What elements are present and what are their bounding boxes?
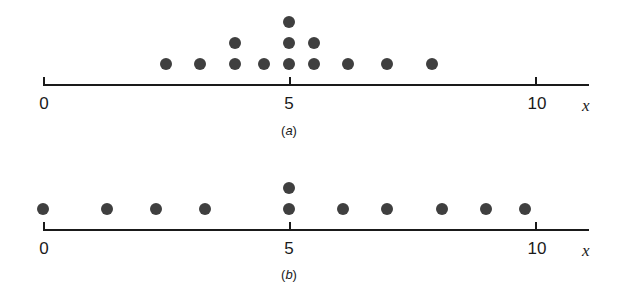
- data-point: [436, 203, 448, 215]
- tick-label-5-b: 5: [284, 240, 293, 257]
- tick-label-0-b: 0: [39, 240, 48, 257]
- tick-5-b: [289, 222, 291, 230]
- data-point: [381, 203, 393, 215]
- data-point: [519, 203, 531, 215]
- paren-close: ): [293, 267, 297, 282]
- data-point: [37, 203, 49, 215]
- data-point: [480, 203, 492, 215]
- data-point: [199, 203, 211, 215]
- tick-10-b: [535, 222, 537, 230]
- tick-label-10-b: 10: [528, 240, 547, 257]
- tick-0-b: [43, 222, 45, 230]
- data-point: [337, 203, 349, 215]
- panel-b: 0 5 10 x (b): [0, 0, 632, 302]
- data-point: [101, 203, 113, 215]
- data-point: [283, 182, 295, 194]
- x-axis-label-b: x: [582, 242, 590, 259]
- panel-letter-b: b: [285, 267, 292, 282]
- panel-label-b: (b): [281, 268, 297, 281]
- x-axis-line-b: [43, 229, 589, 231]
- data-point: [283, 203, 295, 215]
- data-point: [150, 203, 162, 215]
